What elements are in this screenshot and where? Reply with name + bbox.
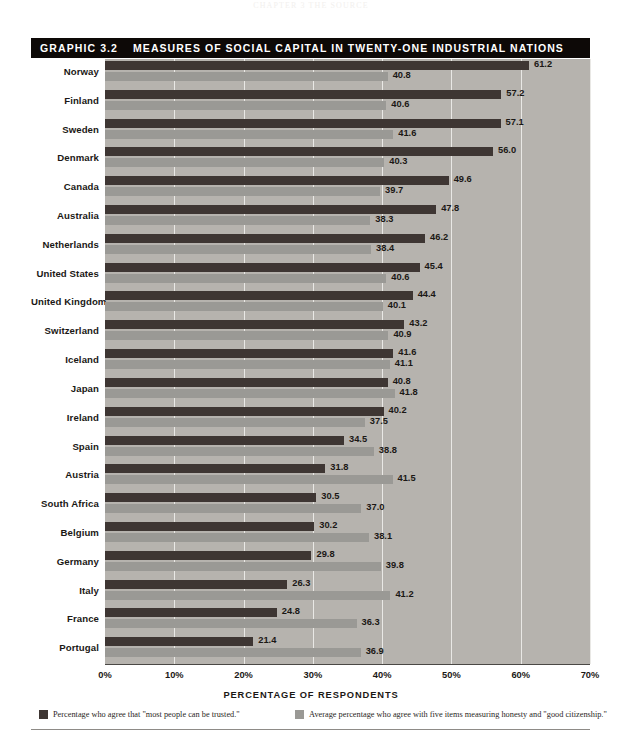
bar-trust (105, 378, 388, 387)
country-label: Spain (31, 441, 99, 452)
bar-value-citizenship: 41.5 (398, 473, 416, 483)
x-tick-label: 30% (304, 670, 323, 680)
country-label: Australia (31, 210, 99, 221)
country-label: Germany (31, 556, 99, 567)
bar-citizenship (105, 158, 384, 167)
chart-row: Japan40.841.8 (31, 376, 590, 405)
bar-trust (105, 464, 325, 473)
x-tick-label: 40% (373, 670, 392, 680)
legend-swatch-light (295, 710, 304, 719)
legend-item: Percentage who agree that "most people c… (39, 710, 240, 719)
bar-value-citizenship: 38.3 (375, 214, 393, 224)
country-label: United Kingdom (31, 296, 99, 307)
bar-citizenship (105, 187, 380, 196)
bar-value-trust: 56.0 (498, 145, 516, 155)
x-axis-title: PERCENTAGE OF RESPONDENTS (0, 690, 622, 700)
bar-value-trust: 26.3 (292, 578, 310, 588)
bar-trust (105, 320, 404, 329)
country-label: Denmark (31, 152, 99, 163)
chart-row: Canada49.639.7 (31, 174, 590, 203)
bar-value-trust: 30.5 (321, 491, 339, 501)
bar-trust (105, 205, 436, 214)
bar-citizenship (105, 245, 371, 254)
bar-trust (105, 119, 501, 128)
bar-citizenship (105, 216, 370, 225)
country-label: Switzerland (31, 325, 99, 336)
bar-value-trust: 45.4 (425, 261, 443, 271)
bar-value-citizenship: 36.3 (362, 617, 380, 627)
country-label: Norway (31, 66, 99, 77)
bar-citizenship (105, 389, 395, 398)
country-label: Belgium (31, 527, 99, 538)
bar-value-citizenship: 36.9 (366, 646, 384, 656)
bar-value-trust: 57.2 (506, 88, 524, 98)
bar-trust (105, 90, 501, 99)
bar-value-citizenship: 40.3 (389, 156, 407, 166)
bar-value-trust: 46.2 (430, 232, 448, 242)
chart-row: Italy26.341.2 (31, 578, 590, 607)
bar-trust (105, 551, 311, 560)
bar-value-trust: 47.8 (441, 203, 459, 213)
bar-trust (105, 263, 420, 272)
page-header: CHAPTER 3 THE SOURCE (0, 1, 622, 10)
country-label: Austria (31, 469, 99, 480)
country-label: Netherlands (31, 239, 99, 250)
x-tick-label: 70% (581, 670, 600, 680)
chart-row: Portugal21.436.9 (31, 635, 590, 664)
bar-trust (105, 147, 493, 156)
bar-citizenship (105, 302, 383, 311)
bar-value-citizenship: 40.9 (393, 329, 411, 339)
bar-trust (105, 349, 393, 358)
bar-value-trust: 34.5 (349, 434, 367, 444)
x-tick-label: 20% (234, 670, 253, 680)
bar-value-citizenship: 39.8 (386, 560, 404, 570)
bar-trust (105, 234, 425, 243)
bar-value-citizenship: 41.6 (398, 128, 416, 138)
bar-rows: Norway61.240.8Finland57.240.6Sweden57.14… (31, 59, 590, 664)
gridline-70 (590, 59, 591, 664)
x-tick-label: 50% (442, 670, 461, 680)
chart-legend: Percentage who agree that "most people c… (31, 710, 590, 724)
bar-value-citizenship: 41.1 (395, 358, 413, 368)
chart-row: United Kingdom44.440.1 (31, 289, 590, 318)
graphic-number: GRAPHIC 3.2 (40, 42, 118, 54)
chart-row: Switzerland43.240.9 (31, 318, 590, 347)
chart-row: Iceland41.641.1 (31, 347, 590, 376)
country-label: South Africa (31, 498, 99, 509)
bar-value-trust: 40.8 (393, 376, 411, 386)
bar-trust (105, 637, 253, 646)
chart-row: South Africa30.537.0 (31, 491, 590, 520)
chart-row: United States45.440.6 (31, 261, 590, 290)
legend-divider (31, 729, 590, 730)
legend-label: Average percentage who agree with five i… (309, 710, 607, 719)
chart-row: Sweden57.141.6 (31, 117, 590, 146)
bar-citizenship (105, 72, 388, 81)
bar-value-trust: 61.2 (534, 59, 552, 69)
bar-value-trust: 57.1 (506, 117, 524, 127)
bar-value-trust: 31.8 (330, 462, 348, 472)
chart-row: Australia47.838.3 (31, 203, 590, 232)
country-label: France (31, 613, 99, 624)
country-label: Japan (31, 383, 99, 394)
bar-citizenship (105, 619, 357, 628)
bar-value-citizenship: 40.1 (388, 300, 406, 310)
bar-citizenship (105, 447, 374, 456)
bar-value-trust: 40.2 (389, 405, 407, 415)
bar-citizenship (105, 562, 381, 571)
chart-row: Ireland40.237.5 (31, 405, 590, 434)
bar-citizenship (105, 274, 386, 283)
chart-row: Finland57.240.6 (31, 88, 590, 117)
x-tick-label: 10% (165, 670, 184, 680)
chart-row: Norway61.240.8 (31, 59, 590, 88)
bar-value-citizenship: 37.0 (366, 502, 384, 512)
bar-value-trust: 21.4 (258, 635, 276, 645)
bar-trust (105, 436, 344, 445)
bar-value-citizenship: 40.6 (391, 272, 409, 282)
legend-swatch-dark (39, 710, 48, 719)
bar-value-trust: 43.2 (409, 318, 427, 328)
legend-label: Percentage who agree that "most people c… (53, 710, 240, 719)
bar-citizenship (105, 360, 390, 369)
bar-value-trust: 49.6 (454, 174, 472, 184)
bar-trust (105, 580, 287, 589)
country-label: Italy (31, 585, 99, 596)
